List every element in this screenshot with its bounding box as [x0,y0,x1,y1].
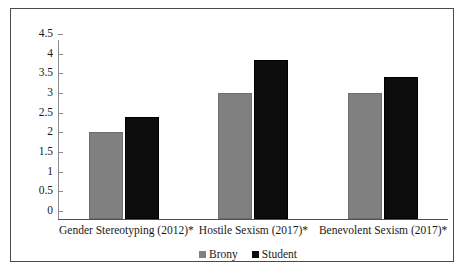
category-label: Gender Stereotyping (2012)* [59,223,189,238]
legend-swatch-icon [199,251,206,258]
bar-brony-1 [218,93,252,219]
y-axis-tick-label: 0 [19,205,53,217]
x-axis-category-labels: Gender Stereotyping (2012)*Hostile Sexis… [59,223,448,243]
bar-student-2 [384,77,418,219]
legend-item-brony[interactable]: Brony [199,248,238,260]
bar-student-1 [254,60,288,219]
y-axis-tick-label: 4.5 [19,28,53,40]
category-label: Hostile Sexism (2017)* [189,223,319,238]
bar-brony-0 [89,132,123,219]
y-axis-tick-label: 1.5 [19,146,53,158]
y-axis-tick-label: 1 [19,166,53,178]
y-axis-tick-label: 2 [19,126,53,138]
chart-legend: BronyStudent [11,248,474,260]
y-axis-tick-label: 3 [19,87,53,99]
y-axis-tick-label: 4 [19,48,53,60]
y-axis-tick-label: 3.5 [19,67,53,79]
legend-label: Brony [209,248,238,260]
y-axis-tick-label: 2.5 [19,107,53,119]
bar-brony-2 [348,93,382,219]
legend-label: Student [262,248,297,260]
y-axis-labels: 4.543.532.521.510.50 [17,9,53,278]
category-label: Benevolent Sexism (2017)* [318,223,448,238]
chart-figure-frame: 4.543.532.521.510.50 Gender Stereotyping… [10,8,454,262]
legend-item-student[interactable]: Student [252,248,297,260]
y-axis-tick-label: 0.5 [19,185,53,197]
legend-swatch-icon [252,251,259,258]
bar-student-0 [125,117,159,219]
